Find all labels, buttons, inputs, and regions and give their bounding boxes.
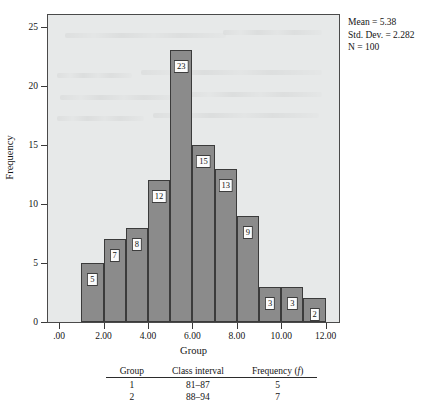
y-axis-tick (41, 145, 47, 146)
stat-mean: Mean = 5.38 (348, 16, 415, 29)
table-cell-class-interval: 81–87 (158, 378, 238, 391)
bar-value-label: 2 (309, 308, 319, 321)
column-header-frequency: Frequency (f) (238, 366, 317, 378)
frequency-header-suffix: ) (300, 366, 303, 376)
bar-value-label: 3 (265, 297, 275, 310)
histogram-bar (81, 263, 103, 322)
table-body: 181–875288–947 (106, 378, 318, 403)
x-axis-tick (237, 323, 238, 329)
y-axis-tick (41, 86, 47, 87)
y-axis-tick-label: 5 (10, 258, 38, 268)
bar-value-label: 5 (87, 273, 97, 286)
stat-std-dev: Std. Dev. = 2.282 (348, 29, 415, 42)
y-axis-tick (41, 322, 47, 323)
bar-value-label: 13 (218, 179, 233, 192)
table-cell-group: 2 (106, 390, 158, 402)
table-cell-group: 1 (106, 378, 158, 391)
y-axis-title: Frequency (4, 118, 15, 198)
histogram-figure: 578122315139332 Frequency Group Mean = 5… (0, 0, 423, 360)
frequency-header-prefix: Frequency ( (252, 366, 298, 376)
x-axis-tick-label: 12.00 (315, 331, 336, 342)
plot-area: 578122315139332 (47, 14, 340, 323)
histogram-bar (215, 169, 237, 323)
x-axis-tick-label: .00 (53, 331, 65, 342)
table-cell-frequency: 5 (238, 378, 317, 391)
table-header-row: Group Class interval Frequency (f) (106, 366, 318, 378)
x-axis-tick-label: 6.00 (184, 331, 201, 342)
bar-series: 578122315139332 (48, 15, 339, 322)
class-interval-table: Group Class interval Frequency (f) 181–8… (106, 366, 318, 402)
stat-n: N = 100 (348, 41, 415, 54)
x-axis-tick (281, 323, 282, 329)
table-row: 181–875 (106, 378, 318, 391)
y-axis-tick-label: 25 (10, 22, 38, 32)
y-axis-tick-label: 0 (10, 317, 38, 327)
bar-value-label: 15 (196, 155, 211, 168)
x-axis-tick (59, 323, 60, 329)
x-axis-tick (104, 323, 105, 329)
x-axis-tick (192, 323, 193, 329)
bar-value-label: 9 (243, 226, 253, 239)
x-axis-tick-label: 8.00 (229, 331, 246, 342)
y-axis-tick-label: 10 (10, 199, 38, 209)
y-axis-tick (41, 27, 47, 28)
y-axis-tick-label: 20 (10, 81, 38, 91)
frequency-distribution-table: Group Class interval Frequency (f) 181–8… (0, 366, 423, 402)
bar-value-label: 3 (287, 297, 297, 310)
column-header-group: Group (106, 366, 158, 378)
table-cell-frequency: 7 (238, 390, 317, 402)
x-axis-tick-label: 10.00 (271, 331, 292, 342)
table-row: 288–947 (106, 390, 318, 402)
x-axis-title: Group (0, 345, 387, 356)
bar-value-label: 8 (132, 238, 142, 251)
y-axis-tick-label: 15 (10, 140, 38, 150)
bar-value-label: 7 (110, 249, 120, 262)
x-axis-tick (148, 323, 149, 329)
statistics-annotation: Mean = 5.38 Std. Dev. = 2.282 N = 100 (348, 16, 415, 54)
column-header-class-interval: Class interval (158, 366, 238, 378)
y-axis-tick (41, 263, 47, 264)
y-axis-tick (41, 204, 47, 205)
histogram-bar (192, 145, 214, 322)
histogram-bar (170, 50, 192, 322)
x-axis-tick-label: 2.00 (95, 331, 112, 342)
bar-value-label: 23 (174, 60, 189, 73)
x-axis-tick (326, 323, 327, 329)
table-cell-class-interval: 88–94 (158, 390, 238, 402)
bar-value-label: 12 (152, 190, 167, 203)
x-axis-tick-label: 4.00 (140, 331, 157, 342)
